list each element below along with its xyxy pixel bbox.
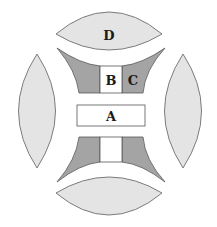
label-c: C	[128, 73, 138, 88]
lower-white-rect	[100, 137, 122, 162]
lower-dark-right	[122, 137, 165, 182]
label-a: A	[105, 109, 117, 124]
lens-left	[19, 54, 56, 168]
lens-bottom	[56, 177, 162, 215]
label-d: D	[103, 28, 114, 43]
upper-dark-left	[57, 48, 100, 93]
lens-right	[165, 54, 202, 168]
label-b: B	[106, 73, 117, 88]
diagram-canvas: D B C A	[0, 0, 217, 227]
lower-dark-left	[57, 137, 100, 182]
